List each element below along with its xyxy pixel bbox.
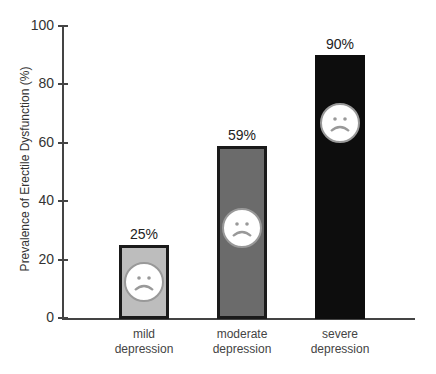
y-tick xyxy=(58,259,68,261)
bar-severe-depression xyxy=(315,55,365,319)
x-category-label: milddepression xyxy=(94,327,194,357)
y-tick xyxy=(58,25,68,27)
y-tick-label: 0 xyxy=(14,309,54,325)
x-category-label: severedepression xyxy=(290,327,390,357)
y-tick xyxy=(58,83,68,85)
y-tick xyxy=(58,142,68,144)
sad-face-icon xyxy=(320,103,360,143)
value-label: 59% xyxy=(212,127,272,143)
y-tick-label: 80 xyxy=(14,75,54,91)
x-category-label: moderatedepression xyxy=(192,327,292,357)
sad-face-icon xyxy=(222,208,262,248)
value-label: 25% xyxy=(114,226,174,242)
y-tick-label: 100 xyxy=(14,17,54,33)
y-tick-label: 40 xyxy=(14,192,54,208)
y-axis xyxy=(62,26,64,319)
sad-face-icon xyxy=(124,262,164,302)
value-label: 90% xyxy=(310,36,370,52)
y-tick-label: 20 xyxy=(14,251,54,267)
y-tick-label: 60 xyxy=(14,134,54,150)
y-tick xyxy=(58,317,68,319)
y-axis-label: Prevalence of Erectile Dysfunction (%) xyxy=(18,64,32,274)
y-tick xyxy=(58,200,68,202)
